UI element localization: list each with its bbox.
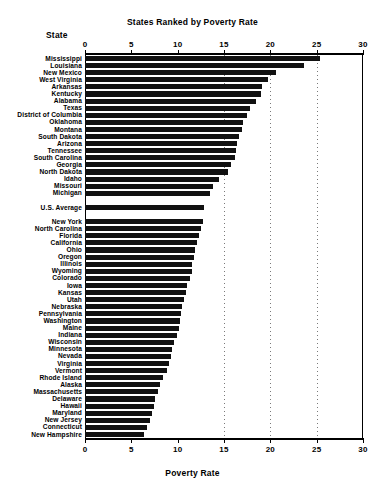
bar bbox=[85, 361, 169, 366]
y-axis-label-iowa: Iowa bbox=[0, 283, 82, 288]
bar bbox=[85, 368, 167, 373]
bar bbox=[85, 169, 228, 174]
bar bbox=[85, 276, 190, 281]
bar-row bbox=[85, 63, 363, 68]
bar bbox=[85, 113, 247, 118]
bar bbox=[85, 177, 219, 182]
y-axis-label-arkansas: Arkansas bbox=[0, 84, 82, 89]
bar-row bbox=[85, 106, 363, 111]
y-axis-label-west-virginia: West Virginia bbox=[0, 77, 82, 82]
bar bbox=[85, 63, 304, 68]
y-axis-label-north-carolina: North Carolina bbox=[0, 226, 82, 231]
bottom-tick bbox=[178, 440, 179, 443]
bar-row bbox=[85, 56, 363, 61]
bar-row bbox=[85, 396, 363, 401]
bar-row bbox=[85, 347, 363, 352]
y-axis-label-virginia: Virginia bbox=[0, 361, 82, 366]
bar bbox=[85, 311, 181, 316]
y-axis-label-indiana: Indiana bbox=[0, 332, 82, 337]
y-axis-label-utah: Utah bbox=[0, 297, 82, 302]
bar bbox=[85, 283, 187, 288]
bar bbox=[85, 56, 320, 61]
bar bbox=[85, 162, 231, 167]
y-axis-label-ohio: Ohio bbox=[0, 247, 82, 252]
bar-row bbox=[85, 162, 363, 167]
bottom-tick bbox=[85, 440, 86, 443]
bar-row bbox=[85, 432, 363, 437]
top-tick bbox=[85, 50, 86, 53]
y-axis-label-kentucky: Kentucky bbox=[0, 91, 82, 96]
bar bbox=[85, 347, 172, 352]
bar bbox=[85, 219, 203, 224]
bar-row bbox=[85, 326, 363, 331]
bar bbox=[85, 269, 192, 274]
bar bbox=[85, 340, 174, 345]
y-axis-label-illinois: Illinois bbox=[0, 261, 82, 266]
top-tick-label: 10 bbox=[166, 40, 190, 49]
top-tick-label: 15 bbox=[212, 40, 236, 49]
bar bbox=[85, 375, 163, 380]
bar-row bbox=[85, 240, 363, 245]
bar-row bbox=[85, 247, 363, 252]
y-axis-label-south-carolina: South Carolina bbox=[0, 155, 82, 160]
bar-row bbox=[85, 411, 363, 416]
y-axis-label-wyoming: Wyoming bbox=[0, 268, 82, 273]
bar-row bbox=[85, 311, 363, 316]
y-axis-label-maine: Maine bbox=[0, 325, 82, 330]
top-tick bbox=[317, 50, 318, 53]
top-tick bbox=[224, 50, 225, 53]
bar bbox=[85, 404, 154, 409]
bar-row bbox=[85, 191, 363, 196]
bar-row bbox=[85, 318, 363, 323]
y-axis-label-texas: Texas bbox=[0, 105, 82, 110]
bar bbox=[85, 262, 192, 267]
y-axis-label-alabama: Alabama bbox=[0, 98, 82, 103]
y-axis-label-rhode-island: Rhode Island bbox=[0, 375, 82, 380]
y-axis-label-massachusetts: Massachusetts bbox=[0, 389, 82, 394]
y-axis-label-nevada: Nevada bbox=[0, 353, 82, 358]
y-axis-label-u-s-average: U.S. Average bbox=[0, 205, 82, 210]
bottom-tick bbox=[224, 440, 225, 443]
bar bbox=[85, 155, 235, 160]
y-axis-label-district-of-columbia: District of Columbia bbox=[0, 112, 82, 117]
bar-row bbox=[85, 177, 363, 182]
bar bbox=[85, 134, 239, 139]
y-axis-label-idaho: Idaho bbox=[0, 176, 82, 181]
top-tick-label: 25 bbox=[305, 40, 329, 49]
bar bbox=[85, 191, 210, 196]
bottom-tick-label: 25 bbox=[305, 445, 329, 454]
bar-row bbox=[85, 120, 363, 125]
y-axis-label-kansas: Kansas bbox=[0, 290, 82, 295]
bar bbox=[85, 247, 195, 252]
state-column-header: State bbox=[46, 30, 68, 40]
bar-row bbox=[85, 84, 363, 89]
bar bbox=[85, 240, 197, 245]
bar-row bbox=[85, 113, 363, 118]
x-axis-label: Poverty Rate bbox=[0, 468, 385, 478]
bottom-tick-label: 10 bbox=[166, 445, 190, 454]
bar-row bbox=[85, 382, 363, 387]
bar-row bbox=[85, 304, 363, 309]
bar bbox=[85, 425, 147, 430]
y-axis-label-tennessee: Tennessee bbox=[0, 148, 82, 153]
bar-row bbox=[85, 127, 363, 132]
bottom-tick bbox=[270, 440, 271, 443]
y-axis-label-maryland: Maryland bbox=[0, 410, 82, 415]
y-axis-label-new-york: New York bbox=[0, 219, 82, 224]
bar bbox=[85, 99, 256, 104]
bar bbox=[85, 77, 268, 82]
bar-row bbox=[85, 262, 363, 267]
bar bbox=[85, 396, 155, 401]
y-axis-label-washington: Washington bbox=[0, 318, 82, 323]
top-tick bbox=[270, 50, 271, 53]
bar bbox=[85, 318, 180, 323]
bar bbox=[85, 411, 152, 416]
bar-row bbox=[85, 276, 363, 281]
bar-row bbox=[85, 290, 363, 295]
y-axis-label-louisiana: Louisiana bbox=[0, 63, 82, 68]
bar-row bbox=[85, 70, 363, 75]
y-axis-label-pennsylvania: Pennsylvania bbox=[0, 311, 82, 316]
bar-row bbox=[85, 255, 363, 260]
y-axis-label-new-mexico: New Mexico bbox=[0, 70, 82, 75]
y-axis-label-nebraska: Nebraska bbox=[0, 304, 82, 309]
